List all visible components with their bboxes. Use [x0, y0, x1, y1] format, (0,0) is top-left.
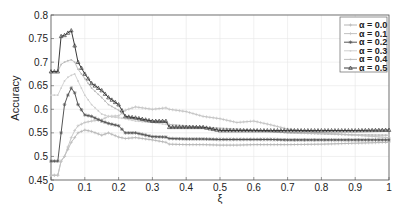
y-tick-label: 0.8 — [34, 10, 48, 21]
y-tick-label: 0.55 — [29, 127, 49, 138]
x-tick-label: 0.8 — [314, 182, 328, 193]
y-tick-label: 0.5 — [34, 151, 48, 162]
y-tick-label: 0.75 — [29, 33, 49, 44]
x-tick-label: 0.2 — [112, 182, 126, 193]
x-tick-label: 0.6 — [247, 182, 261, 193]
x-axis-label: ξ — [218, 192, 223, 204]
x-tick-label: 0.7 — [281, 182, 295, 193]
x-tick-label: 0.4 — [179, 182, 193, 193]
legend: α = 0.0α = 0.1α = 0.2α = 0.3α = 0.4α = 0… — [340, 17, 387, 73]
y-tick-label: 0.65 — [29, 80, 49, 91]
x-tick-label: 0.1 — [78, 182, 92, 193]
x-tick-label: 0.3 — [145, 182, 159, 193]
x-tick-label: 0 — [48, 182, 54, 193]
y-tick-label: 0.45 — [29, 175, 49, 186]
x-tick-label: 0.9 — [348, 182, 362, 193]
y-tick-label: 0.7 — [34, 57, 48, 68]
y-axis-label: Accuracy — [9, 75, 21, 121]
y-tick-label: 0.6 — [34, 104, 48, 115]
x-tick-label: 1 — [386, 182, 392, 193]
legend-label: α = 0.5 — [359, 63, 387, 73]
accuracy-line-chart: 00.10.20.30.40.50.60.70.80.91 0.450.50.5… — [0, 0, 408, 212]
